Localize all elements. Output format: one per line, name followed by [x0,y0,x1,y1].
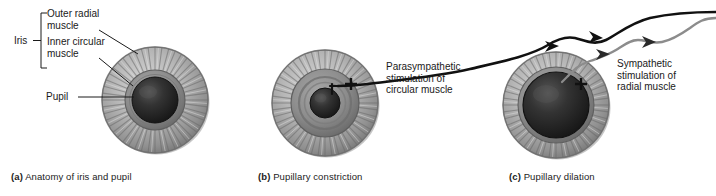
sympathetic-callout: Sympathetic stimulation of radial muscle [617,58,676,93]
panel-caption-c-text: Pupillary dilation [524,171,595,182]
sympathetic-callout-line1: Sympathetic [617,58,676,70]
label-outer-radial-muscle: Outer radial muscle [47,8,99,31]
parasympathetic-callout-line3: circular muscle [386,84,460,96]
iris-pupil-figure: Iris Outer radial muscle Inner circular … [0,0,716,196]
pupil-c [523,72,589,138]
label-pupil: Pupil [46,91,68,103]
nerve-arrow-c-2 [596,49,610,60]
label-outer-radial-muscle-line2: muscle [47,20,99,32]
pupil-a [132,77,178,123]
panel-caption-a-text: Anatomy of iris and pupil [25,171,132,182]
label-outer-radial-muscle-line1: Outer radial [47,8,99,20]
pupil-highlight-b [315,94,327,103]
pupil-highlight-a [139,86,157,99]
panel-caption-a-letter: (a) [11,171,23,182]
panel-caption-b-text: Pupillary constriction [273,171,362,182]
parasympathetic-callout-line2: stimulation of [386,73,460,85]
panel-caption-c-letter: (c) [509,171,521,182]
label-iris: Iris [14,35,27,47]
label-inner-circular-muscle-line2: muscle [47,48,105,60]
figure-artwork [0,0,716,196]
eye-diagram-b [272,50,380,158]
pupil-highlight-c [533,85,559,103]
label-iris-text: Iris [14,35,27,46]
sympathetic-callout-line2: stimulation of [617,70,676,82]
panel-caption-b-letter: (b) [258,171,270,182]
parasympathetic-callout: Parasympathetic stimulation of circular … [386,61,460,96]
panel-caption-c: (c) Pupillary dilation [509,171,595,182]
eye-diagram-a [102,47,210,155]
sympathetic-callout-line3: radial muscle [617,81,676,93]
label-inner-circular-muscle-line1: Inner circular [47,36,105,48]
parasympathetic-callout-line1: Parasympathetic [386,61,460,73]
panel-caption-b: (b) Pupillary constriction [258,171,363,182]
pupil-b [310,88,340,118]
nerve-arrow-c-1 [642,36,656,48]
eye-diagram-c [503,52,611,160]
panel-caption-a: (a) Anatomy of iris and pupil [11,171,132,182]
label-pupil-text: Pupil [46,91,68,102]
label-inner-circular-muscle: Inner circular muscle [47,36,105,59]
